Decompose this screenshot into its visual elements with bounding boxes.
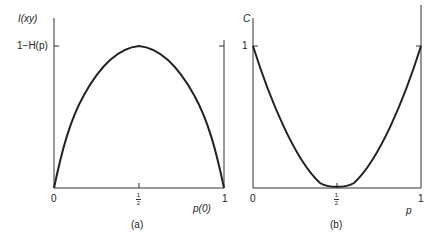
panel-b-x-tick-0: 0 (250, 194, 256, 204)
panel-b-caption: (b) (330, 220, 342, 230)
panel-a-x-tick-1: 1 (222, 194, 228, 204)
panel-b-x-tick-half-label: 1 2 (334, 192, 339, 206)
panel-a-x-tick-0: 0 (51, 194, 57, 204)
panel-a-x-label: p(0) (193, 204, 211, 214)
fraction-denominator: 2 (137, 200, 140, 206)
fraction-numerator: 1 (137, 192, 140, 198)
panel-b-y-tick-label: 1 (242, 41, 248, 51)
panel-b-curve (253, 46, 421, 187)
panel-a-y-label: I(xy) (18, 14, 37, 24)
panel-a-y-tick-label: 1−H(p) (17, 41, 48, 51)
diagram-canvas (0, 0, 444, 240)
panel-b-x-label: p (406, 206, 412, 216)
panel-a-caption: (a) (131, 220, 143, 230)
fraction-denominator: 2 (335, 200, 338, 206)
panel-b-axes (253, 5, 421, 188)
panel-b-x-tick-1: 1 (418, 194, 424, 204)
panel-a-x-tick-half-label: 1 2 (136, 192, 141, 206)
fraction-numerator: 1 (335, 192, 338, 198)
panel-a-curve (54, 46, 224, 188)
panel-b-y-label: C (243, 14, 250, 24)
